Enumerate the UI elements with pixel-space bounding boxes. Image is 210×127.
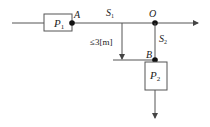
- node-b-label: B: [146, 49, 152, 60]
- node-a: [69, 20, 75, 26]
- node-o-label: O: [149, 8, 156, 19]
- pipe-flow-diagram: P1 A S1 O ≤3[m] S2 B P2: [0, 0, 210, 127]
- node-a-label: A: [73, 9, 81, 20]
- segment-s1-label: S1: [106, 7, 114, 19]
- dimension-label: ≤3[m]: [90, 37, 112, 47]
- component-p1: P1: [44, 14, 72, 31]
- component-p2: P2: [145, 62, 167, 90]
- segment-s2-label: S2: [159, 33, 167, 45]
